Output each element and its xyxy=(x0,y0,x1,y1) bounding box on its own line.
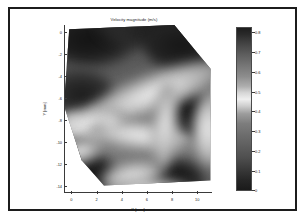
plot-axes: 0 2 4 6 8 10 0 -2 -4 -6 -8 -10 -12 -14 X… xyxy=(64,25,212,193)
y-tick-label-minus8: -8 xyxy=(53,117,62,122)
x-tick-label-6: 6 xyxy=(146,197,148,202)
y-tick-minus12 xyxy=(64,164,67,165)
colorbar-label-0.3: 0.3 xyxy=(255,129,260,134)
screenshot-page: Velocity magnitude (m/s) xyxy=(0,0,305,219)
y-tick-label-minus2: -2 xyxy=(53,51,62,56)
colorbar-label-0.8: 0.8 xyxy=(255,29,260,34)
y-tick-label-minus10: -10 xyxy=(53,139,62,144)
y-tick-minus2 xyxy=(64,54,67,55)
y-axis-line xyxy=(64,25,65,193)
colorbar-label-0.5: 0.5 xyxy=(255,89,260,94)
velocity-magnitude-figure: Velocity magnitude (m/s) xyxy=(8,7,297,211)
x-tick-10 xyxy=(197,191,198,194)
y-tick-minus14 xyxy=(64,186,67,187)
colorbar-label-0: 0 xyxy=(255,188,257,193)
colorbar-label-0.6: 0.6 xyxy=(255,69,260,74)
x-tick-8 xyxy=(172,191,173,194)
y-tick-0 xyxy=(64,32,67,33)
colorbar: 0.8 0.7 0.6 0.5 0.4 0.3 0.2 0.1 0 xyxy=(236,27,252,191)
y-tick-minus10 xyxy=(64,142,67,143)
y-tick-label-minus6: -6 xyxy=(53,95,62,100)
y-tick-label-minus14: -14 xyxy=(53,184,62,189)
y-tick-minus8 xyxy=(64,120,67,121)
x-tick-label-10: 10 xyxy=(195,197,199,202)
x-tick-6 xyxy=(147,191,148,194)
x-tick-label-4: 4 xyxy=(121,197,123,202)
x-tick-4 xyxy=(122,191,123,194)
colorbar-label-0.2: 0.2 xyxy=(255,149,260,154)
colorbar-label-0.4: 0.4 xyxy=(255,109,260,114)
y-tick-label-0: 0 xyxy=(53,29,62,34)
chart-title: Velocity magnitude (m/s) xyxy=(54,17,214,22)
x-tick-label-8: 8 xyxy=(171,197,173,202)
x-tick-0 xyxy=(71,191,72,194)
x-tick-2 xyxy=(97,191,98,194)
y-tick-minus4 xyxy=(64,76,67,77)
y-tick-label-minus4: -4 xyxy=(53,73,62,78)
x-tick-label-2: 2 xyxy=(95,197,97,202)
x-axis-title: X [mm] xyxy=(64,207,212,212)
x-tick-label-0: 0 xyxy=(70,197,72,202)
y-tick-label-minus12: -12 xyxy=(53,162,62,167)
x-axis-line xyxy=(64,192,212,193)
colorbar-label-0.7: 0.7 xyxy=(255,49,260,54)
colorbar-gradient xyxy=(236,27,252,191)
colorbar-label-0.1: 0.1 xyxy=(255,169,260,174)
y-tick-minus6 xyxy=(64,98,67,99)
y-axis-title: Y [mm] xyxy=(42,102,47,115)
